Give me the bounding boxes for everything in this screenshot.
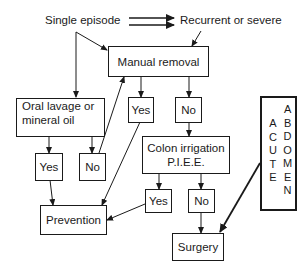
colon-irrigation-node: Colon irrigation P.I.E.E.: [142, 136, 230, 174]
recurrent-or-severe-label: Recurrent or severe: [180, 14, 282, 26]
surgery-node: Surgery: [172, 233, 224, 261]
abdomen-word: A B D O M E N: [283, 103, 292, 198]
manual-no-label: No: [181, 103, 196, 117]
letter: T: [270, 158, 277, 172]
oral-lavage-label-line1: Oral lavage or: [22, 99, 94, 113]
letter: M: [283, 157, 292, 171]
single-episode-label: Single episode: [45, 14, 120, 26]
manual-yes-label: Yes: [132, 103, 151, 117]
colon-yes-label: Yes: [149, 194, 168, 208]
letter: N: [284, 184, 292, 198]
letter: E: [269, 171, 276, 185]
prevention-label: Prevention: [46, 213, 101, 227]
letter: D: [284, 130, 292, 144]
letter: C: [269, 131, 277, 145]
oral-yes-node: Yes: [35, 153, 63, 181]
letter: A: [269, 117, 276, 131]
letter: U: [269, 144, 277, 158]
colon-no-node: No: [188, 189, 215, 213]
prevention-node: Prevention: [40, 205, 107, 235]
letter: B: [284, 117, 291, 131]
manual-yes-node: Yes: [128, 97, 154, 123]
manual-removal-node: Manual removal: [108, 46, 209, 77]
acute-abdomen-box: A C U T E A B D O M E N: [260, 96, 297, 211]
surgery-label: Surgery: [178, 240, 218, 254]
letter: A: [284, 103, 291, 117]
oral-yes-label: Yes: [40, 160, 59, 174]
oral-no-label: No: [85, 160, 100, 174]
oral-lavage-label-line2: mineral oil: [22, 113, 74, 127]
manual-removal-label: Manual removal: [118, 55, 200, 69]
colon-yes-node: Yes: [145, 189, 172, 213]
colon-irrigation-label-line1: Colon irrigation: [147, 141, 224, 155]
letter: O: [283, 144, 292, 158]
letter: E: [284, 171, 291, 185]
flowchart: Single episode Recurrent or severe Manua…: [0, 0, 307, 269]
colon-irrigation-label-line2: P.I.E.E.: [167, 155, 205, 169]
colon-no-label: No: [194, 194, 209, 208]
manual-no-node: No: [175, 97, 202, 123]
oral-lavage-node: Oral lavage or mineral oil: [16, 98, 105, 137]
acute-word: A C U T E: [269, 117, 277, 185]
oral-no-node: No: [79, 153, 106, 181]
